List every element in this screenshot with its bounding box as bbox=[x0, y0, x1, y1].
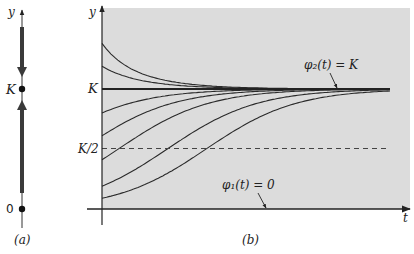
arrow-up-icon bbox=[17, 100, 27, 110]
y-tick-K-half: K/2 bbox=[77, 142, 99, 156]
y-tick-K: K bbox=[87, 81, 99, 96]
phi1-annotation: φ₁(t) = 0 bbox=[222, 178, 275, 192]
y-axis-label: y bbox=[88, 5, 96, 19]
phase-line-panel: y K 0 (a) bbox=[5, 5, 31, 247]
solution-curves-panel: y t K K/2 φ₂(t) = K φ₁(t) = 0 (b) bbox=[77, 5, 410, 247]
phase-K-label: K bbox=[5, 82, 17, 97]
t-axis-label: t bbox=[403, 211, 408, 225]
equilibrium-0-dot bbox=[19, 206, 25, 212]
caption-a: (a) bbox=[14, 233, 31, 247]
phase-axis-label: y bbox=[7, 5, 15, 19]
caption-b: (b) bbox=[242, 233, 259, 247]
arrow-down-icon bbox=[17, 67, 27, 77]
equilibrium-K-dot bbox=[19, 86, 25, 92]
phase-0-label: 0 bbox=[6, 202, 14, 216]
phi2-annotation: φ₂(t) = K bbox=[304, 58, 359, 72]
figure: y K 0 (a) y t K K/2 φ₂(t) = K φ₁(t) = 0 … bbox=[0, 0, 414, 254]
